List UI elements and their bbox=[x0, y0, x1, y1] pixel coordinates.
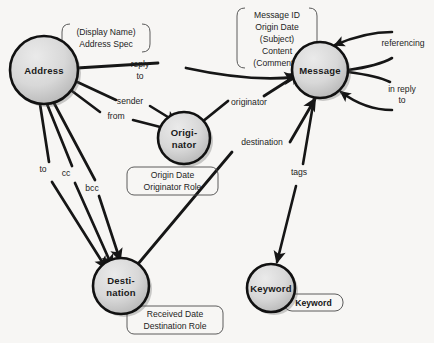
node-address-label: Address bbox=[24, 65, 63, 76]
annotation-line: Origin Date bbox=[151, 170, 195, 180]
annotation-line: Keyword bbox=[295, 298, 331, 308]
annotation-address-attributes: (Display Name) Address Spec bbox=[62, 24, 150, 52]
edge-label-cc: cc bbox=[62, 168, 71, 178]
edge-label-reply-to-line2: to bbox=[136, 71, 143, 81]
annotation-line: Content bbox=[262, 46, 293, 56]
annotation-line: (Display Name) bbox=[76, 27, 135, 37]
annotation-line: Destination Role bbox=[143, 321, 206, 331]
node-destination[interactable]: Desti- nation bbox=[93, 258, 152, 317]
node-address[interactable]: Address bbox=[10, 36, 81, 107]
edge-label-destination: destination bbox=[241, 137, 283, 147]
edge-label-originator: originator bbox=[231, 97, 267, 107]
diagram-svg: (Display Name) Address Spec Message ID O… bbox=[0, 0, 434, 343]
edge-label-sender: sender bbox=[117, 96, 143, 106]
node-originator-label-line2: nator bbox=[172, 139, 197, 150]
annotation-line: Originator Role bbox=[144, 182, 202, 192]
annotation-line: (Subject) bbox=[260, 34, 295, 44]
edge-label-from: from bbox=[107, 111, 124, 121]
annotation-line: Address Spec bbox=[79, 39, 133, 49]
node-destination-label-line1: Desti- bbox=[107, 275, 135, 286]
edge-label-bcc: bcc bbox=[85, 183, 99, 193]
node-message-label: Message bbox=[299, 65, 341, 76]
node-message[interactable]: Message bbox=[292, 42, 351, 101]
node-destination-label-line2: nation bbox=[106, 287, 136, 298]
edge-label-referencing: referencing bbox=[382, 38, 425, 48]
annotation-originator-attributes: Origin Date Originator Role bbox=[127, 167, 218, 195]
annotation-line: Origin Date bbox=[255, 22, 299, 32]
edge-label-in-reply-to-line1: in reply bbox=[388, 84, 416, 94]
edge-label-reply-to-line1: reply bbox=[131, 59, 150, 69]
edge-label-tags: tags bbox=[291, 167, 307, 177]
node-keyword[interactable]: Keyword bbox=[247, 264, 298, 315]
node-originator-label-line1: Origi- bbox=[171, 127, 198, 138]
annotation-line: Message ID bbox=[254, 10, 300, 20]
edge-cc bbox=[47, 104, 112, 266]
diagram-canvas: (Display Name) Address Spec Message ID O… bbox=[0, 0, 434, 343]
edge-label-in-reply-to-line2: to bbox=[398, 95, 405, 105]
edge-tags bbox=[277, 99, 314, 262]
node-keyword-label: Keyword bbox=[250, 283, 292, 294]
edge-labels-layer: reply to sender from to cc bcc originato… bbox=[39, 38, 424, 193]
annotation-line: Received Date bbox=[147, 309, 204, 319]
edge-label-to: to bbox=[39, 164, 46, 174]
